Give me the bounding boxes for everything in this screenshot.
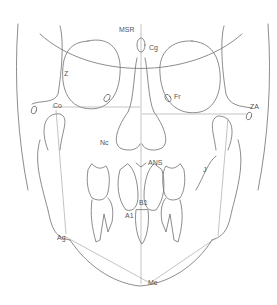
left-head-contour (16, 24, 28, 190)
landmark-co: Co (53, 102, 62, 109)
lower-incisors (135, 210, 148, 244)
left-orbit (63, 40, 121, 109)
left-lower-molar (91, 198, 113, 242)
right-mandible-outer (212, 140, 241, 240)
left-condyle (44, 114, 65, 150)
right-ear-marker (245, 111, 252, 120)
landmark-a1: A1 (125, 212, 134, 219)
landmark-za: ZA (250, 103, 259, 110)
j-contour (196, 156, 216, 190)
right-head-contour (258, 24, 270, 190)
left-upper-incisor (118, 164, 138, 210)
landmark-j: J (203, 166, 207, 173)
cephalometric-diagram: MSR Cg Z Fr Co ZA Nc ANS J B1 A1 Ag Me (0, 0, 277, 305)
right-upper-molar (163, 164, 185, 200)
landmark-nc: Nc (100, 139, 109, 146)
right-ramus-line (218, 118, 228, 236)
ag-me-left-line (64, 236, 150, 283)
landmark-ag: Ag (57, 234, 66, 241)
landmark-b1: B1 (139, 199, 148, 206)
teeth (87, 164, 185, 244)
landmark-msr: MSR (119, 26, 135, 33)
landmark-ans: ANS (148, 159, 162, 166)
right-nasal-cavity (142, 58, 166, 150)
left-upper-molar (87, 164, 109, 200)
right-lower-molar (161, 198, 182, 242)
left-ramus-line (56, 110, 66, 234)
right-condyle (212, 116, 232, 150)
left-lateral-contour (32, 26, 62, 104)
ag-me-right-line (150, 238, 216, 283)
landmark-cg: Cg (149, 44, 158, 51)
skull-tracing (0, 0, 277, 305)
landmark-me: Me (148, 279, 158, 286)
left-ear-marker (30, 105, 37, 114)
landmark-z: Z (64, 70, 68, 77)
landmark-fr: Fr (174, 93, 181, 100)
